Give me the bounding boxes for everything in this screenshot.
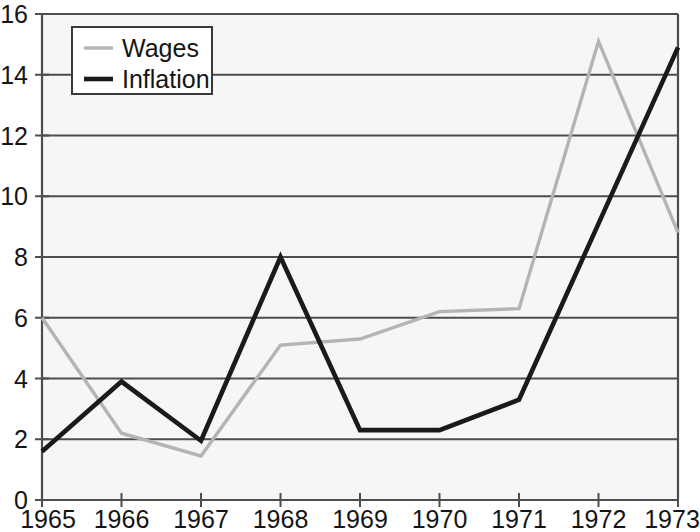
y-tick-label: 4	[14, 365, 28, 393]
line-chart: 0246810121416 19651966196719681969197019…	[0, 0, 700, 532]
x-tick-label: 1970	[412, 505, 468, 532]
x-tick-label: 1969	[332, 505, 388, 532]
y-tick-label: 6	[14, 304, 28, 332]
x-tick-label: 1967	[173, 505, 229, 532]
x-axis-tick-labels: 196519661967196819691970197119721973	[20, 505, 700, 532]
y-tick-label: 10	[0, 182, 28, 210]
legend-label-inflation: Inflation	[122, 65, 210, 93]
y-tick-label: 12	[0, 122, 28, 150]
x-tick-label: 1968	[253, 505, 309, 532]
y-tick-label: 16	[0, 0, 28, 28]
x-tick-label: 1972	[571, 505, 627, 532]
y-tick-label: 2	[14, 425, 28, 453]
legend-label-wages: Wages	[122, 34, 199, 62]
y-tick-label: 14	[0, 61, 28, 89]
y-tick-label: 8	[14, 243, 28, 271]
x-tick-label: 1965	[20, 505, 76, 532]
y-axis-tick-labels: 0246810121416	[0, 0, 28, 514]
x-tick-label: 1966	[94, 505, 150, 532]
x-tick-label: 1971	[491, 505, 547, 532]
legend: Wages Inflation	[72, 27, 212, 94]
chart-canvas: 0246810121416 19651966196719681969197019…	[0, 0, 700, 532]
x-tick-label: 1973	[644, 505, 700, 532]
